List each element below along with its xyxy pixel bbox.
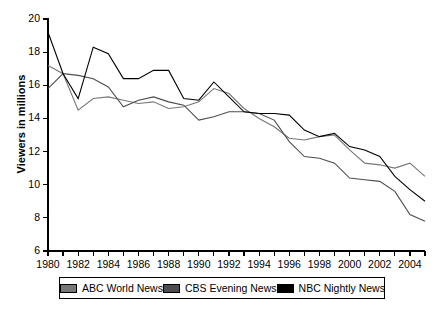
legend-swatch-icon [163,284,180,293]
legend-entry: NBC Nightly News [277,282,385,294]
legend-label: ABC World News [82,282,163,294]
y-tick-label: 10 [8,178,40,190]
series-line-nbc-nightly-news [48,32,425,201]
y-tick-label: 14 [8,111,40,123]
y-tick-label: 12 [8,145,40,157]
series-layer [48,32,425,221]
chart-legend: ABC World NewsCBS Evening NewsNBC Nightl… [59,277,385,299]
y-tick-label: 20 [8,12,40,24]
legend-swatch-icon [277,284,294,293]
legend-label: CBS Evening News [185,282,277,294]
chart-container: Viewers in millions 68101214161820 19801… [0,0,440,315]
y-tick-label: 8 [8,211,40,223]
legend-label: NBC Nightly News [299,282,385,294]
legend-swatch-icon [60,284,77,293]
series-line-abc-world-news [48,65,425,176]
y-tick-label: 18 [8,45,40,57]
axis-layer [43,18,425,256]
y-tick-label: 16 [8,78,40,90]
y-tick-label: 6 [8,244,40,256]
x-tick-label: 2004 [390,258,430,270]
series-line-cbs-evening-news [48,74,425,221]
legend-entry: CBS Evening News [163,282,277,294]
legend-entry: ABC World News [60,282,163,294]
